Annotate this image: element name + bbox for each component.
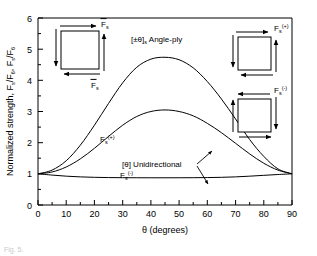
x-tick-label: 0 [35,209,40,219]
y-axis-title-denom2-sub: 6 [10,47,16,50]
x-axis-title: θ (degrees) [142,225,188,235]
x-tick-label: 60 [202,209,212,219]
x-tick-label: 80 [259,209,269,219]
figure-caption: Fig. 5. [4,246,24,254]
y-axis-title-prefix: Normalized strength, [5,91,15,177]
x-tick-label: 50 [174,209,184,219]
y-axis-title: Normalized strength, Fs/F6, Fs/F6 [5,47,16,176]
x-tick-label: 70 [231,209,241,219]
y-tick-label: 3 [27,107,32,117]
svg-text:Normalized strength, Fs/F6, Fs: Normalized strength, Fs/F6, Fs/F6 [5,47,16,176]
y-tick-label: 4 [27,76,32,86]
x-tick-label: 30 [118,209,128,219]
x-tick-label: 40 [146,209,156,219]
inset2-element-square [238,37,271,70]
y-tick-label: 2 [27,138,32,148]
x-tick-label: 90 [287,209,297,219]
y-tick-label: 1 [27,169,32,179]
y-tick-label: 0 [27,201,32,211]
angle-ply-rest: Angle-ply [147,35,182,44]
y-tick-label: 5 [27,45,32,55]
unidirectional-label: [θ] Unidirectional [122,160,182,169]
y-tick-label: 6 [27,14,32,24]
x-tick-label: 20 [89,209,99,219]
inset1-element-square [61,31,99,69]
figure-container: 0 1 2 3 4 5 6 0 10 20 30 40 50 60 [0,0,317,256]
inset3-element-square [238,99,271,132]
angle-ply-bracket: [±θ] [131,35,144,44]
chart-svg: 0 1 2 3 4 5 6 0 10 20 30 40 50 60 [0,0,317,256]
angle-ply-label: [±θ]s Angle-ply [131,35,182,45]
x-tick-label: 10 [61,209,71,219]
